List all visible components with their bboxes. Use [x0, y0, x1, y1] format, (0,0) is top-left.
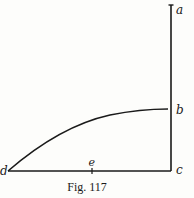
figure-caption: Fig. 117	[67, 180, 107, 194]
label-b: b	[176, 103, 184, 117]
figure-117-diagram: a b c d e Fig. 117	[0, 0, 194, 198]
label-a: a	[176, 3, 183, 17]
label-e: e	[89, 156, 96, 169]
label-c: c	[176, 163, 183, 177]
label-d: d	[0, 164, 8, 178]
